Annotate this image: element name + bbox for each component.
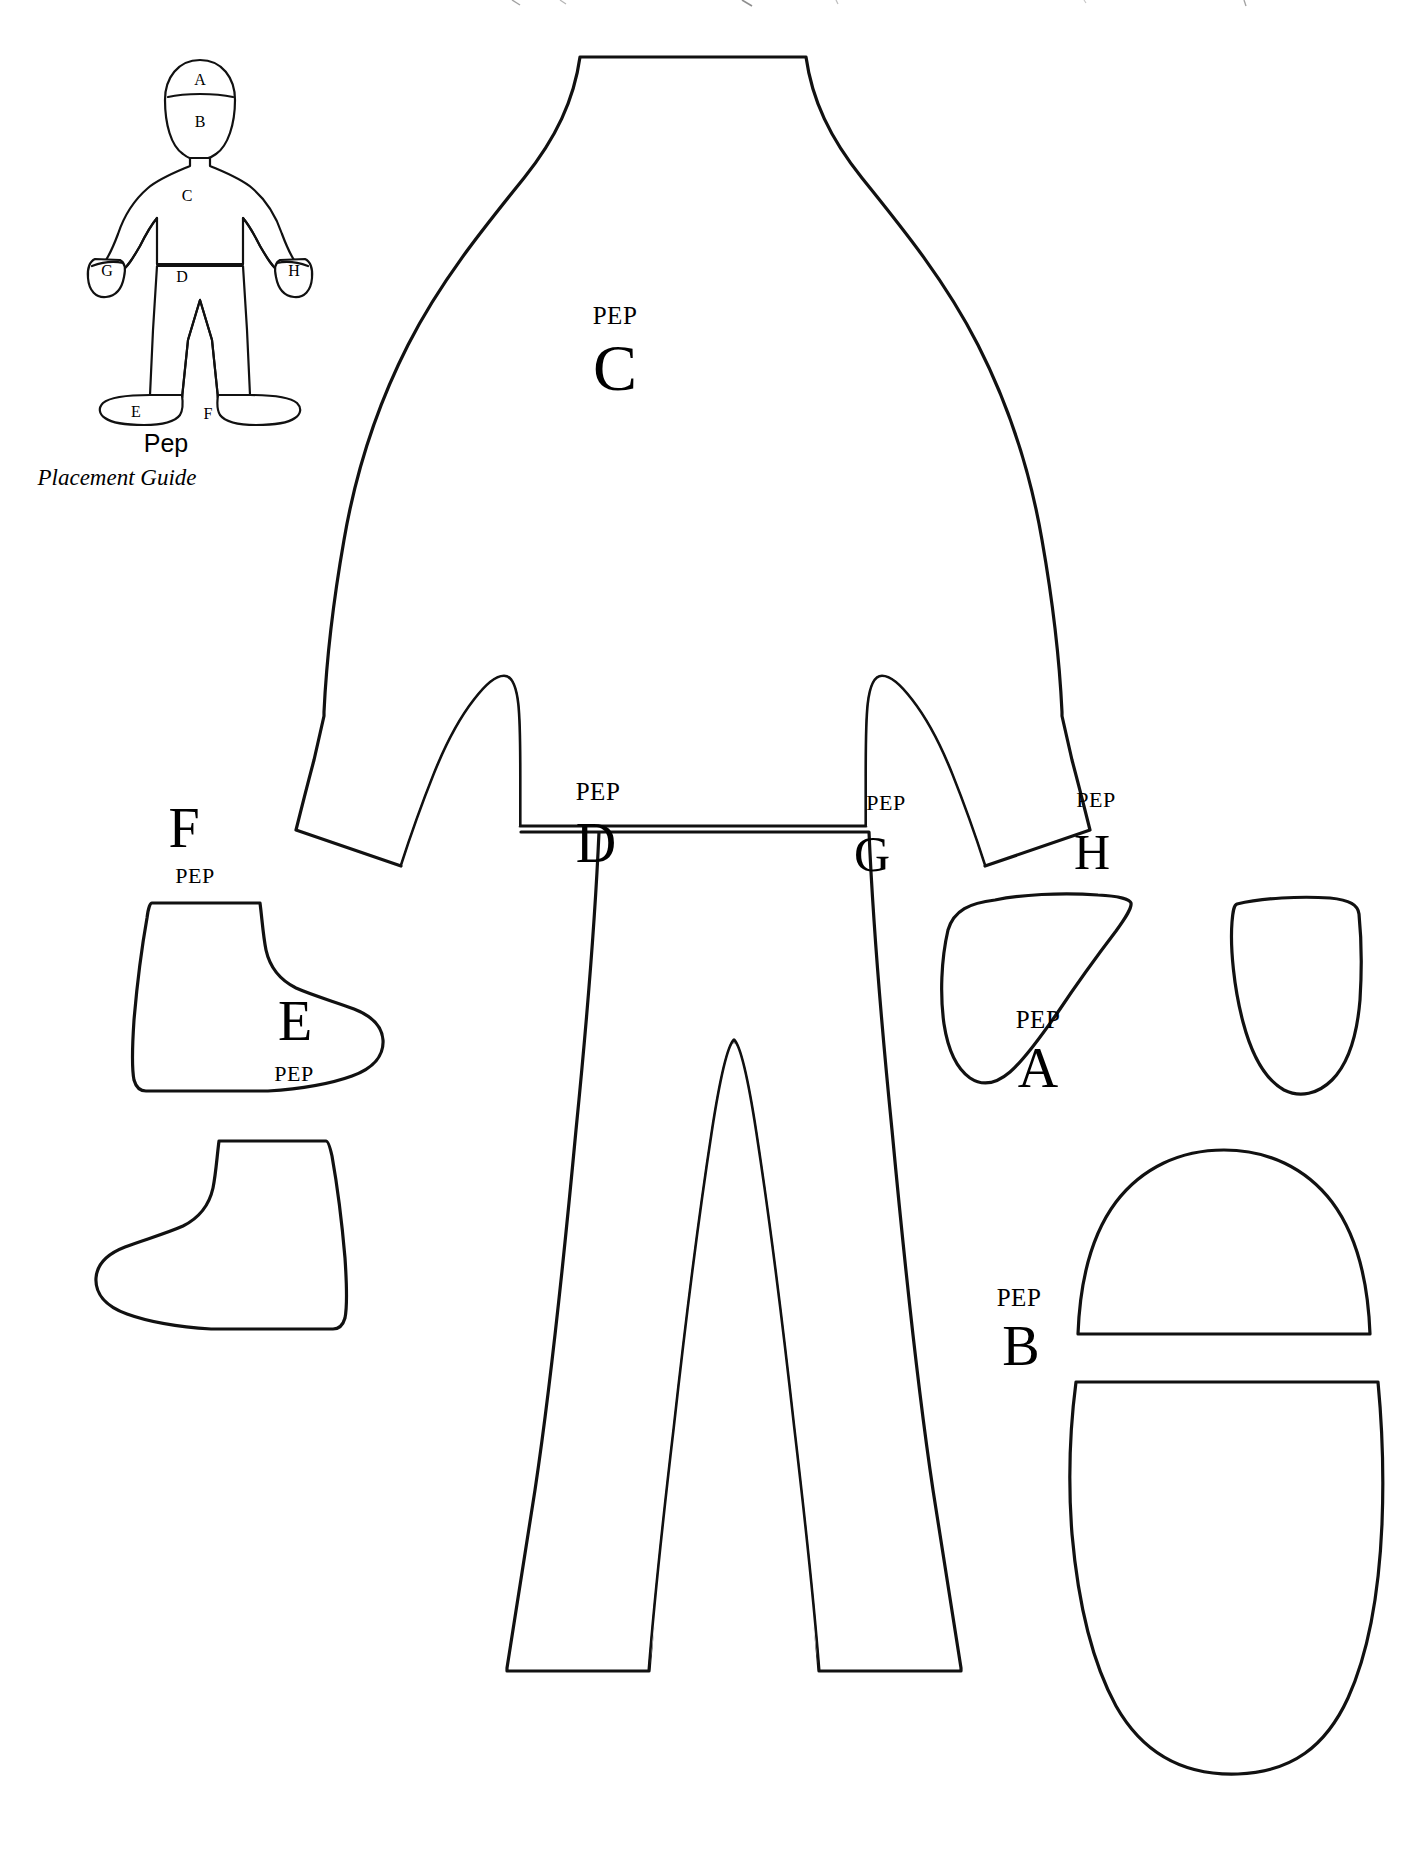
piece-h-letter: H — [1074, 827, 1110, 877]
guide-label-e: E — [131, 403, 141, 421]
piece-a-prefix: PEP — [1016, 1007, 1061, 1032]
piece-e-shoe-shape — [96, 1141, 347, 1329]
piece-g-letter: G — [854, 829, 890, 879]
piece-g-prefix: PEP — [866, 792, 905, 814]
piece-a-letter: A — [1018, 1040, 1058, 1096]
piece-c-letter: C — [593, 335, 637, 401]
guide-label-b: B — [195, 113, 206, 131]
piece-h-prefix: PEP — [1076, 789, 1115, 811]
piece-e-prefix: PEP — [274, 1063, 313, 1085]
piece-e-letter: E — [278, 993, 312, 1049]
piece-b-prefix: PEP — [997, 1285, 1042, 1310]
piece-d-letter: D — [576, 815, 616, 871]
placement-guide-title: Pep — [144, 429, 188, 458]
piece-c-jacket-shape — [296, 57, 1090, 866]
pattern-artwork — [0, 0, 1419, 1866]
pattern-sheet-page: A B C D E F G H Pep Placement Guide PEP … — [0, 0, 1419, 1866]
piece-d-prefix: PEP — [576, 779, 621, 804]
guide-label-g: G — [101, 262, 113, 280]
piece-b-face-shape — [1070, 1382, 1383, 1774]
piece-h-hand-shape — [1231, 897, 1361, 1094]
piece-f-letter: F — [168, 800, 199, 856]
placement-guide-subtitle: Placement Guide — [37, 465, 196, 491]
piece-f-shoe-shape — [133, 903, 384, 1091]
guide-label-f: F — [204, 405, 213, 423]
piece-d-pants-shape — [507, 832, 961, 1671]
guide-label-h: H — [288, 262, 300, 280]
guide-label-c: C — [182, 187, 193, 205]
piece-b-letter: B — [1002, 1318, 1039, 1374]
piece-c-prefix: PEP — [593, 303, 638, 328]
piece-f-prefix: PEP — [175, 865, 214, 887]
guide-label-d: D — [176, 268, 188, 286]
guide-label-a: A — [194, 71, 206, 89]
scan-edge-marks — [512, 0, 1246, 6]
piece-a-haircap-shape — [1078, 1150, 1370, 1334]
